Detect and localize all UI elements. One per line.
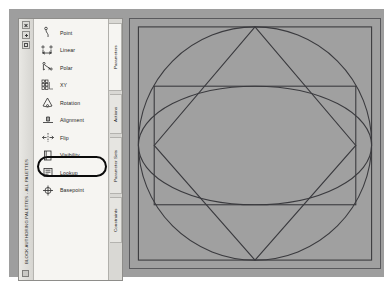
- tab-label: Actions: [113, 106, 118, 121]
- palette-title: BLOCK AUTHORING PALETTES - ALL PALETTES: [20, 159, 33, 264]
- palette-item-flip[interactable]: Flip: [34, 130, 108, 145]
- tab-parameter-sets[interactable]: Parameter Sets: [110, 137, 122, 194]
- diamond-shape: [154, 27, 356, 260]
- palette-item-xy[interactable]: XY: [34, 78, 108, 93]
- close-icon[interactable]: [22, 21, 30, 29]
- palette-item-label: Point: [60, 30, 72, 36]
- ellipse-shape: [138, 86, 371, 205]
- block-authoring-palettes-window[interactable]: BLOCK AUTHORING PALETTES - ALL PALETTES …: [18, 18, 123, 281]
- xy-icon: [41, 79, 55, 92]
- tab-label: Parameter Sets: [113, 149, 118, 181]
- properties-menu-icon[interactable]: [22, 41, 30, 49]
- palette-item-visibility[interactable]: Visibility: [34, 148, 108, 163]
- palette-titlebar[interactable]: BLOCK AUTHORING PALETTES - ALL PALETTES: [19, 19, 34, 280]
- palette-item-label: Basepoint: [60, 187, 84, 193]
- tab-label: Constraints: [113, 208, 118, 232]
- palette-item-label: Visibility: [60, 152, 80, 158]
- palette-item-label: Lookup: [60, 170, 78, 176]
- palette-item-lookup[interactable]: Lookup: [34, 165, 108, 180]
- inner-rectangle-shape: [154, 86, 356, 205]
- palette-item-label: Alignment: [60, 117, 84, 123]
- palette-item-rotation[interactable]: Rotation: [34, 95, 108, 110]
- palette-item-basepoint[interactable]: Basepoint: [34, 183, 108, 198]
- rotation-icon: [41, 96, 55, 109]
- outer-square-shape: [138, 27, 371, 260]
- cad-geometry: [130, 19, 380, 268]
- autohide-icon[interactable]: [22, 31, 30, 39]
- palette-item-linear[interactable]: Linear: [34, 43, 108, 58]
- palette-tab-strip: Parameters Actions Parameter Sets Constr…: [108, 19, 122, 280]
- drawing-canvas[interactable]: [129, 18, 381, 269]
- linear-icon: [41, 44, 55, 57]
- palette-item-list: Point Linear: [34, 19, 108, 280]
- circle-shape: [138, 27, 371, 260]
- palette-item-label: Rotation: [60, 100, 80, 106]
- palette-item-alignment[interactable]: Alignment: [34, 113, 108, 128]
- basepoint-icon: [41, 184, 55, 197]
- palette-item-point[interactable]: Point: [34, 25, 108, 40]
- visibility-icon: [41, 149, 55, 162]
- tab-label: Parameters: [113, 45, 118, 69]
- palette-badge-icon: [22, 270, 29, 277]
- lookup-icon: [41, 166, 55, 179]
- palette-item-label: Linear: [60, 47, 75, 53]
- palette-item-label: Flip: [60, 135, 69, 141]
- workspace-background: BLOCK AUTHORING PALETTES - ALL PALETTES …: [9, 9, 384, 277]
- flip-icon: [41, 131, 55, 144]
- tab-parameters[interactable]: Parameters: [109, 23, 122, 91]
- palette-item-label: Polar: [60, 65, 73, 71]
- palette-item-polar[interactable]: Polar: [34, 60, 108, 75]
- alignment-icon: [41, 114, 55, 127]
- point-icon: [41, 26, 55, 39]
- palette-item-label: XY: [60, 82, 67, 88]
- tab-actions[interactable]: Actions: [110, 94, 122, 134]
- polar-icon: [41, 61, 55, 74]
- tab-constraints[interactable]: Constraints: [110, 197, 122, 243]
